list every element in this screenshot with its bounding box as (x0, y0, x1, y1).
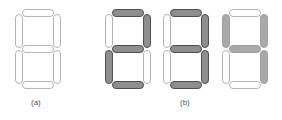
caption-label-b: (b) (180, 98, 190, 107)
segment-d (22, 81, 54, 89)
segment-d (170, 81, 202, 89)
segment-e (222, 50, 230, 84)
segment-g (229, 45, 261, 53)
segment-f (15, 14, 23, 48)
segment-f (222, 14, 230, 48)
seven-segment-digit-blank (15, 9, 61, 89)
segment-b (143, 14, 151, 48)
segment-g (112, 45, 144, 53)
segment-f (163, 14, 171, 48)
segment-b (53, 14, 61, 48)
segment-c (201, 50, 209, 84)
segment-a (112, 9, 144, 17)
segment-a (22, 9, 54, 17)
segment-c (53, 50, 61, 84)
segment-e (105, 50, 113, 84)
segment-g (170, 45, 202, 53)
segment-g (22, 45, 54, 53)
segment-b (201, 14, 209, 48)
segment-c (143, 50, 151, 84)
segment-b (260, 14, 268, 48)
seven-segment-digit-three (163, 9, 209, 89)
segment-a (229, 9, 261, 17)
segment-a (170, 9, 202, 17)
seven-segment-digit-two (105, 9, 151, 89)
segment-e (15, 50, 23, 84)
segment-d (112, 81, 144, 89)
segment-f (105, 14, 113, 48)
segment-e (163, 50, 171, 84)
segment-c (260, 50, 268, 84)
seven-segment-digit-four (222, 9, 268, 89)
caption-label-a: (a) (31, 98, 41, 107)
segment-d (229, 81, 261, 89)
